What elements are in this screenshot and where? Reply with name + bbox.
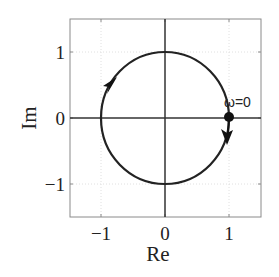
x-axis-label: Re — [146, 242, 169, 266]
xtick-label-neg1: −1 — [91, 223, 111, 244]
ytick-label-0: 0 — [56, 108, 66, 129]
nyquist-plot: ω=0 −1 0 1 1 0 −1 Re Im — [0, 0, 279, 277]
xtick-label-0: 0 — [160, 223, 170, 244]
ytick-label-neg1: −1 — [45, 174, 65, 195]
omega-zero-marker — [224, 112, 234, 122]
y-axis-label: Im — [17, 106, 41, 129]
omega-zero-label: ω=0 — [224, 94, 251, 110]
ytick-label-1: 1 — [56, 42, 66, 63]
xtick-label-1: 1 — [224, 223, 234, 244]
